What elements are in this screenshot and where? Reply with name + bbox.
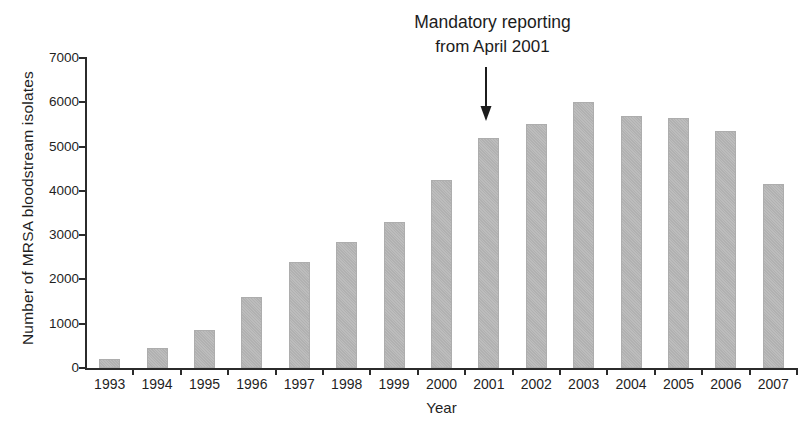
y-tick-mark xyxy=(79,146,85,148)
bar-2003 xyxy=(573,102,594,368)
x-tick-mark xyxy=(322,370,324,375)
bar-2000 xyxy=(431,180,452,368)
bar-2004 xyxy=(621,116,642,368)
y-tick-label: 5000 xyxy=(33,139,79,155)
x-tick-label: 1995 xyxy=(181,376,228,392)
bar-1994 xyxy=(147,348,168,368)
bar-1997 xyxy=(289,262,310,368)
y-tick-mark xyxy=(79,234,85,236)
y-tick-label: 7000 xyxy=(33,50,79,66)
x-tick-mark xyxy=(417,370,419,375)
bar-2005 xyxy=(668,118,689,368)
x-tick-mark xyxy=(275,370,277,375)
x-axis-title: Year xyxy=(86,399,797,416)
y-tick-mark xyxy=(79,367,85,369)
y-axis-line xyxy=(85,57,87,370)
y-tick-mark xyxy=(79,323,85,325)
y-tick-label: 1000 xyxy=(33,316,79,332)
bar-1993 xyxy=(99,359,120,368)
y-tick-label: 2000 xyxy=(33,271,79,287)
x-tick-mark xyxy=(606,370,608,375)
x-tick-mark xyxy=(796,370,798,375)
y-tick-label: 3000 xyxy=(33,227,79,243)
x-tick-label: 2007 xyxy=(750,376,797,392)
y-tick-mark xyxy=(79,57,85,59)
bar-1999 xyxy=(384,222,405,368)
x-tick-label: 2004 xyxy=(607,376,654,392)
y-tick-label: 4000 xyxy=(33,183,79,199)
y-tick-mark xyxy=(79,101,85,103)
y-tick-mark xyxy=(79,190,85,192)
annotation-line-2: from April 2001 xyxy=(380,35,605,59)
x-tick-label: 2005 xyxy=(655,376,702,392)
x-tick-mark xyxy=(464,370,466,375)
x-tick-mark xyxy=(654,370,656,375)
x-tick-mark xyxy=(701,370,703,375)
bar-2006 xyxy=(715,131,736,368)
x-tick-label: 1996 xyxy=(228,376,275,392)
y-tick-label: 0 xyxy=(33,360,79,376)
annotation-line-1: Mandatory reporting xyxy=(380,9,605,35)
mrsa-isolates-bar-chart: Number of MRSA bloodstream isolates 0100… xyxy=(0,0,812,432)
x-tick-label: 2000 xyxy=(418,376,465,392)
chart-annotation: Mandatory reporting from April 2001 xyxy=(380,9,605,59)
x-tick-mark xyxy=(180,370,182,375)
bar-2007 xyxy=(763,184,784,368)
x-tick-label: 2001 xyxy=(465,376,512,392)
x-axis-line xyxy=(85,368,798,370)
x-tick-mark xyxy=(369,370,371,375)
bar-1998 xyxy=(336,242,357,368)
y-tick-label: 6000 xyxy=(33,94,79,110)
x-tick-label: 1993 xyxy=(86,376,133,392)
x-tick-label: 1998 xyxy=(323,376,370,392)
bar-2001 xyxy=(478,138,499,368)
bar-2002 xyxy=(526,124,547,368)
x-tick-label: 1997 xyxy=(276,376,323,392)
y-tick-mark xyxy=(79,278,85,280)
x-tick-label: 2006 xyxy=(702,376,749,392)
bar-1995 xyxy=(194,330,215,368)
x-tick-mark xyxy=(559,370,561,375)
x-tick-label: 1994 xyxy=(133,376,180,392)
x-tick-label: 2002 xyxy=(513,376,560,392)
x-tick-mark xyxy=(749,370,751,375)
y-axis-title: Number of MRSA bloodstream isolates xyxy=(19,71,37,345)
bar-1996 xyxy=(241,297,262,368)
x-tick-label: 1999 xyxy=(370,376,417,392)
down-arrow-icon xyxy=(477,66,495,124)
x-tick-label: 2003 xyxy=(560,376,607,392)
x-tick-mark xyxy=(132,370,134,375)
x-tick-mark xyxy=(227,370,229,375)
x-tick-mark xyxy=(512,370,514,375)
